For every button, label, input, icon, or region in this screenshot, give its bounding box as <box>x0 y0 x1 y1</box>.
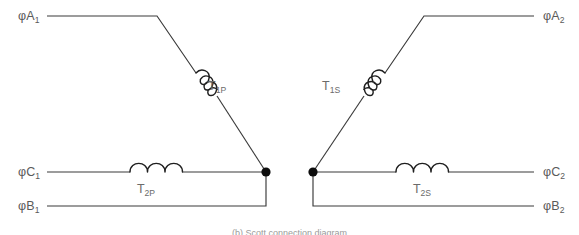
coil-label-t1s: T1S <box>322 79 340 95</box>
scott-connection-diagram: φA1 φC1 φB1 T1P T2P <box>0 0 579 235</box>
wire-a2-lead <box>385 16 534 73</box>
wire-t1p-to-junction <box>217 96 266 172</box>
junction-dot-primary <box>261 167 270 176</box>
terminal-label-c1: φC1 <box>18 165 40 181</box>
coil-t2s <box>396 163 449 172</box>
coil-t2p <box>130 163 183 172</box>
secondary-side-group: φA2 φC2 φB2 T1S T2S <box>308 9 565 215</box>
terminal-label-a2: φA2 <box>543 9 565 25</box>
coil-label-t2s: T2S <box>413 182 431 198</box>
wire-t1s-to-junction <box>313 96 364 172</box>
coil-label-t2p: T2P <box>137 182 155 198</box>
schematic-canvas: φA1 φC1 φB1 T1P T2P <box>0 0 579 235</box>
primary-side-group: φA1 φC1 φB1 T1P T2P <box>18 9 271 215</box>
wire-a1-lead <box>47 16 196 73</box>
coil-t1s <box>364 70 385 96</box>
terminal-label-b1: φB1 <box>18 199 40 215</box>
junction-dot-secondary <box>308 167 317 176</box>
terminal-label-c2: φC2 <box>543 165 565 181</box>
coil-label-t1p: T1P <box>208 79 226 95</box>
wire-b1-lead <box>47 172 266 206</box>
terminal-label-a1: φA1 <box>18 9 40 25</box>
terminal-label-b2: φB2 <box>543 199 565 215</box>
figure-caption-clip: (b) Scott connection diagram <box>0 228 579 235</box>
figure-caption: (b) Scott connection diagram <box>0 228 579 235</box>
